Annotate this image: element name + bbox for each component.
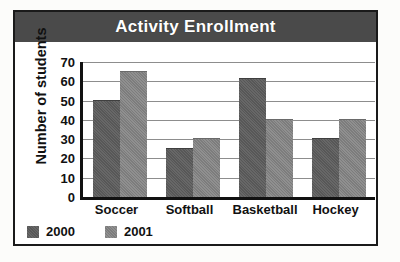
y-tick-label: 20 [61, 152, 75, 165]
bar-groups [83, 62, 375, 197]
x-tick-label: Hockey [306, 202, 366, 217]
legend-label: 2001 [124, 224, 153, 239]
bar-softball-2001 [193, 138, 220, 197]
y-tick-label: 50 [61, 94, 75, 107]
x-tick-label: Softball [160, 202, 220, 217]
chart-body: Number of students 706050403020100 Socce… [15, 42, 376, 244]
bar-group [93, 62, 147, 197]
x-tick-label: Basketball [233, 202, 293, 217]
legend-swatch-icon [27, 226, 39, 238]
bar-hockey-2000 [312, 138, 339, 197]
y-tick-label: 30 [61, 133, 75, 146]
chart-page: Activity Enrollment Number of students 7… [0, 0, 400, 262]
bar-hockey-2001 [339, 119, 366, 197]
legend-swatch-icon [105, 226, 117, 238]
bar-soccer-2000 [93, 100, 120, 197]
y-axis-label: Number of students [33, 26, 49, 166]
y-tick-label: 10 [61, 171, 75, 184]
bar-softball-2000 [166, 148, 193, 197]
bar-group [312, 62, 366, 197]
bar-basketball-2001 [266, 119, 293, 197]
y-axis-ticks: 706050403020100 [51, 62, 75, 197]
chart-legend: 20002001 [27, 224, 183, 239]
y-tick-label: 70 [61, 56, 75, 69]
y-tick-label: 60 [61, 75, 75, 88]
y-tick-label: 0 [68, 191, 75, 204]
bar-group [166, 62, 220, 197]
legend-item-2000[interactable]: 2000 [27, 224, 75, 239]
x-tick-label: Soccer [87, 202, 147, 217]
legend-item-2001[interactable]: 2001 [105, 224, 153, 239]
bar-soccer-2001 [120, 71, 147, 197]
x-axis-labels: SoccerSoftballBasketballHockey [80, 202, 372, 217]
bar-basketball-2000 [239, 78, 266, 197]
y-tick-label: 40 [61, 113, 75, 126]
figure-frame: Activity Enrollment Number of students 7… [13, 10, 378, 246]
bar-group [239, 62, 293, 197]
chart-title: Activity Enrollment [115, 17, 276, 37]
legend-label: 2000 [46, 224, 75, 239]
plot-area [80, 62, 375, 200]
chart-title-bar: Activity Enrollment [15, 12, 376, 42]
